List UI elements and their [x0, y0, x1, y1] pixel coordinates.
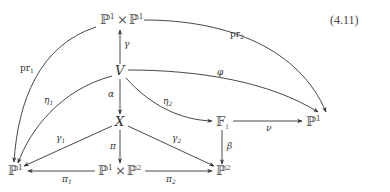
arrow-gamma1 [24, 126, 112, 166]
label-gamma1: γ1 [56, 133, 65, 144]
arrow-pr1 [14, 27, 96, 162]
node-p1-right: ℙ1 [306, 114, 321, 129]
label-eta2: η2 [163, 96, 172, 107]
arrow-eta1 [18, 76, 112, 163]
label-nu: ν [266, 123, 272, 133]
node-p1-left: ℙ1 [8, 163, 23, 178]
label-pi1: π1 [61, 174, 72, 185]
label-pi: π [109, 141, 117, 151]
arrow-gamma2 [128, 126, 214, 166]
label-gamma2: γ2 [172, 133, 181, 144]
node-x: X [114, 114, 125, 129]
node-p2: ℙ2 [216, 163, 231, 178]
label-beta: β [226, 141, 232, 151]
label-pi2: π2 [165, 174, 176, 185]
label-alpha: α [108, 89, 114, 99]
node-p1-times-p1: ℙ1×ℙ1 [100, 12, 144, 27]
node-p1-times-p2: ℙ1×ℙ2 [98, 163, 142, 178]
node-v: V [115, 63, 126, 78]
equation-number: (4.11) [330, 13, 359, 27]
label-gamma: γ [124, 39, 130, 49]
label-pr1: pr1 [20, 63, 34, 74]
label-phi: φ [217, 67, 224, 77]
commutative-diagram: (4.11) ℙ1×ℙ1 V X 𝔽1 ℙ1 ℙ1 ℙ1×ℙ2 ℙ2 pr1 p… [0, 0, 390, 192]
label-eta1: η1 [44, 95, 53, 106]
label-pr2: pr2 [230, 29, 244, 40]
node-f1: 𝔽1 [216, 114, 229, 130]
